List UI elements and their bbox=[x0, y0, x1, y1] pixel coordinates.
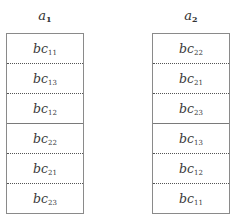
cell-base: bc bbox=[33, 71, 48, 86]
cell-base: bc bbox=[179, 41, 194, 56]
cell: bc23 bbox=[7, 183, 83, 213]
cell: bc13 bbox=[153, 123, 229, 153]
cell: bc12 bbox=[7, 93, 83, 123]
cell: bc13 bbox=[7, 63, 83, 93]
cell-base: bc bbox=[179, 131, 194, 146]
column-label-base: a bbox=[184, 8, 192, 23]
cell-base: bc bbox=[179, 191, 194, 206]
cell: bc22 bbox=[153, 34, 229, 63]
cell: bc11 bbox=[153, 183, 229, 213]
cell-base: bc bbox=[33, 131, 48, 146]
cell-base: bc bbox=[33, 191, 48, 206]
cell-subscript: 22 bbox=[194, 49, 203, 57]
cell-base: bc bbox=[33, 41, 48, 56]
cell: bc22 bbox=[7, 123, 83, 153]
cell-base: bc bbox=[179, 161, 194, 176]
cell: bc11 bbox=[7, 34, 83, 63]
cell-base: bc bbox=[33, 161, 48, 176]
cell-stack-a1: bc11 bc13 bc12 bc22 bc21 bc23 bbox=[6, 33, 84, 214]
column-label-a2: a2 bbox=[152, 8, 230, 27]
cell-subscript: 11 bbox=[194, 199, 203, 207]
cell-subscript: 23 bbox=[48, 199, 57, 207]
cell: bc21 bbox=[153, 63, 229, 93]
cell-subscript: 23 bbox=[194, 109, 203, 117]
cell-subscript: 13 bbox=[194, 139, 203, 147]
cell-base: bc bbox=[179, 101, 194, 116]
cell-base: bc bbox=[33, 101, 48, 116]
cell: bc21 bbox=[7, 153, 83, 183]
cell-subscript: 11 bbox=[48, 49, 57, 57]
cell-subscript: 12 bbox=[194, 169, 203, 177]
cell: bc12 bbox=[153, 153, 229, 183]
column-label-subscript: 1 bbox=[46, 14, 52, 24]
cell-stack-a2: bc22 bc21 bc23 bc13 bc12 bc11 bbox=[152, 33, 230, 214]
cell: bc23 bbox=[153, 93, 229, 123]
column-label-base: a bbox=[38, 8, 46, 23]
cell-subscript: 21 bbox=[48, 169, 57, 177]
cell-subscript: 22 bbox=[48, 139, 57, 147]
column-label-a1: a1 bbox=[6, 8, 84, 27]
cell-subscript: 12 bbox=[48, 109, 57, 117]
cell-base: bc bbox=[179, 71, 194, 86]
cell-subscript: 21 bbox=[194, 79, 203, 87]
cell-subscript: 13 bbox=[48, 79, 57, 87]
column-label-subscript: 2 bbox=[192, 14, 198, 24]
